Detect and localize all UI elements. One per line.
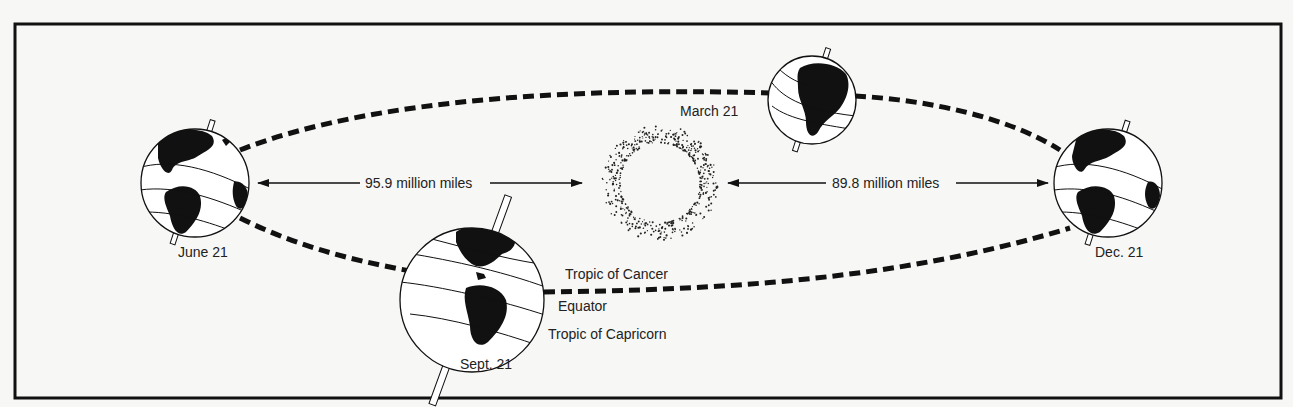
orbit-diagram: June 21 Sept. 21 March 21 Dec. 21 95.9 m…	[0, 0, 1293, 407]
earth-globe-march	[768, 48, 856, 152]
label-distance-perihelion: 89.8 million miles	[832, 175, 939, 191]
label-tropic-capricorn: Tropic of Capricorn	[548, 326, 667, 342]
label-march: March 21	[680, 103, 738, 119]
earth-globe-sept	[400, 195, 548, 406]
label-tropic-cancer: Tropic of Cancer	[565, 266, 668, 282]
orbit-path	[240, 92, 1070, 292]
earth-globe-june	[138, 120, 252, 245]
label-dec: Dec. 21	[1095, 244, 1143, 260]
label-equator: Equator	[558, 298, 607, 314]
sun-icon	[602, 125, 719, 240]
label-sept: Sept. 21	[460, 356, 512, 372]
label-distance-aphelion: 95.9 million miles	[365, 175, 472, 191]
label-june: June 21	[178, 244, 228, 260]
